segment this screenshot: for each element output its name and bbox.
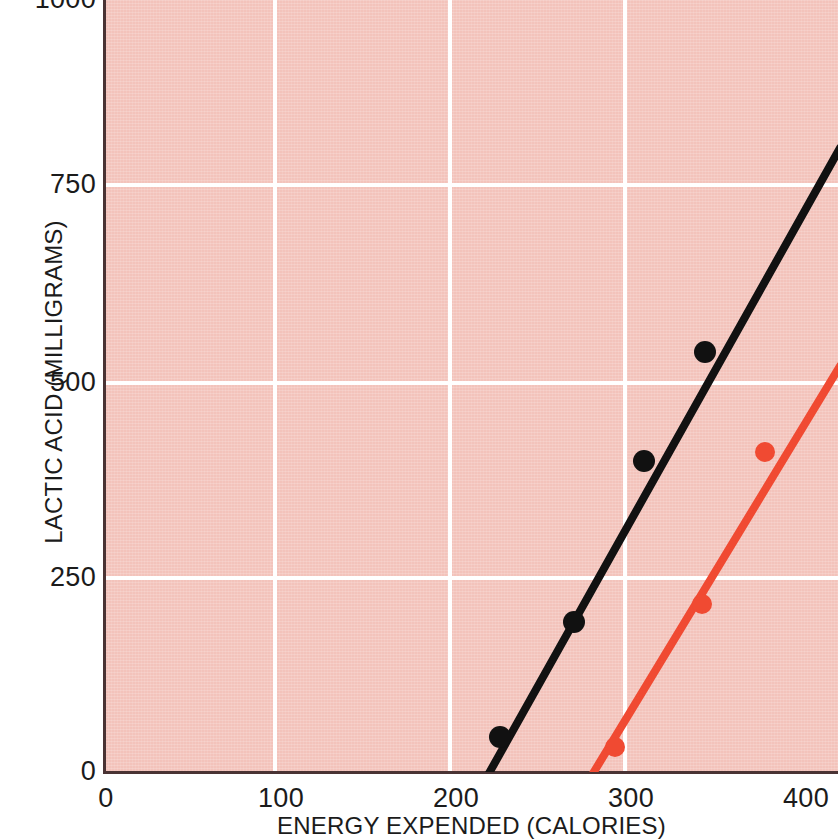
x-tick-label-300: 300 <box>571 783 691 814</box>
x-tick-label-100: 100 <box>221 783 341 814</box>
y-axis-title: LACTIC ACID (MILLIGRAMS) <box>40 72 68 692</box>
gridline-y-750 <box>105 183 838 187</box>
plot-area <box>105 0 838 772</box>
y-tick-label-1000: 1000 <box>4 0 96 15</box>
y-axis-spine <box>103 0 106 774</box>
gridline-x-100 <box>273 0 277 772</box>
x-axis-spine <box>103 771 838 774</box>
gridline-x-300 <box>623 0 627 772</box>
x-tick-label-400: 400 <box>746 783 838 814</box>
x-tick-label-0: 0 <box>46 783 166 814</box>
gridline-y-250 <box>105 576 838 580</box>
gridline-x-200 <box>448 0 452 772</box>
gridline-y-500 <box>105 381 838 385</box>
x-axis-title: ENERGY EXPENDED (CALORIES) <box>105 812 838 840</box>
x-tick-label-200: 200 <box>396 783 516 814</box>
plot-background-texture <box>105 0 838 772</box>
